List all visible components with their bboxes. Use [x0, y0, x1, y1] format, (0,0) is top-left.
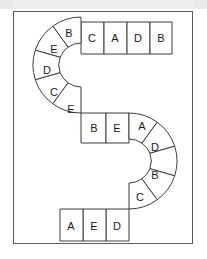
cell-label: B: [157, 32, 164, 44]
cell-label: E: [67, 103, 74, 115]
top-decor-band-inner: [13, 0, 194, 9]
cell-label: E: [90, 220, 97, 232]
cell-label: D: [134, 32, 142, 44]
cell-label: A: [67, 220, 75, 232]
cell-label: C: [88, 32, 96, 44]
board-path-diagram: B C A D B E D C E B E A D B C D E A: [14, 12, 192, 243]
board-frame: B C A D B E D C E B E A D B C D E A: [13, 11, 193, 244]
cell-label: C: [50, 86, 58, 98]
top-decor-band: [0, 0, 207, 9]
cell-label: A: [138, 120, 146, 132]
cell-label: D: [43, 64, 51, 76]
cell-label: E: [50, 43, 57, 55]
cell-label: E: [113, 122, 120, 134]
cell-label: B: [65, 27, 72, 39]
cell-label: A: [111, 32, 119, 44]
cell-label: B: [90, 122, 97, 134]
cell-label: B: [151, 169, 158, 181]
cell-label: C: [136, 191, 144, 203]
cell-label: D: [151, 141, 159, 153]
cell-label: D: [113, 220, 121, 232]
